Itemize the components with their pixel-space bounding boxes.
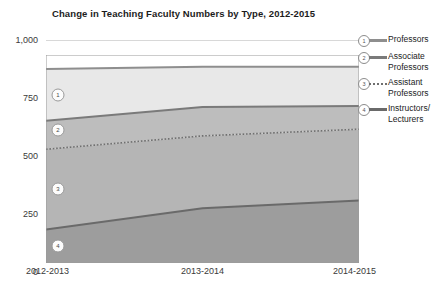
band-badge-3: 3: [52, 183, 65, 196]
area-bands: [46, 67, 359, 263]
chart-title: Change in Teaching Faculty Numbers by Ty…: [52, 8, 315, 19]
legend-marker-3-icon: 3: [358, 78, 388, 89]
legend-item-associate-professors[interactable]: 2 Associate Professors: [358, 51, 448, 72]
legend-line-1: [369, 39, 387, 42]
x-tick-label-2012-2013: 2012-2013: [26, 266, 69, 276]
legend-marker-1-icon: 1: [358, 35, 388, 46]
gridline-1000: [46, 40, 359, 41]
legend-item-instructors-lecturers[interactable]: 4 Instructors/ Lecturers: [358, 103, 448, 124]
y-axis: 1,000 750 500 250 0: [0, 40, 44, 272]
x-tick-label-2014-2015: 2014-2015: [333, 266, 376, 276]
legend-line-2: [369, 56, 387, 59]
x-axis: 2012-2013 2013-2014 2014-2015: [0, 266, 448, 282]
legend-label-instructors-lecturers: Instructors/ Lecturers: [388, 103, 430, 124]
legend-line-4: [369, 108, 387, 111]
legend-marker-4-icon: 4: [358, 104, 388, 115]
chart-container: Change in Teaching Faculty Numbers by Ty…: [0, 0, 448, 298]
legend-marker-2-icon: 2: [358, 52, 388, 63]
band-badge-2: 2: [52, 123, 65, 136]
legend-item-professors[interactable]: 1 Professors: [358, 34, 448, 46]
band-badge-1: 1: [52, 88, 65, 101]
chart-legend: 1 Professors 2 Associate Professors 3 As…: [358, 34, 448, 129]
legend-item-assistant-professors[interactable]: 3 Assistant Professors: [358, 77, 448, 98]
plot-area: 1234: [46, 55, 359, 263]
stacked-area-svg: [46, 55, 359, 263]
y-tick-label-250: 250: [23, 209, 38, 219]
legend-label-professors: Professors: [388, 34, 429, 45]
y-tick-label-1000: 1,000: [15, 35, 38, 45]
y-tick-label-750: 750: [23, 93, 38, 103]
y-tick-label-500: 500: [23, 151, 38, 161]
legend-label-associate-professors: Associate Professors: [388, 51, 429, 72]
legend-line-3-dotted: [369, 83, 387, 85]
band-badge-4: 4: [52, 239, 65, 252]
legend-label-assistant-professors: Assistant Professors: [388, 77, 429, 98]
x-tick-label-2013-2014: 2013-2014: [181, 266, 224, 276]
